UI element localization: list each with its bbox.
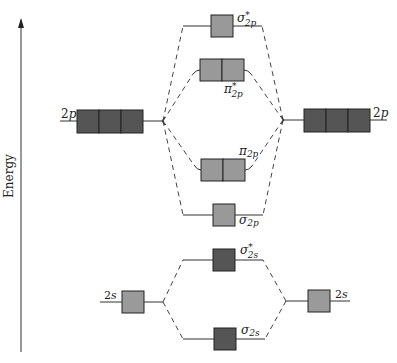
correlation-lines-left-2p [163,26,194,215]
right-2p-orbital: 2p [284,106,389,132]
right-2p-label: 2p [373,106,389,120]
left-2s-orbital: 2s [100,289,163,313]
mo-sigma-2p: σ2p [183,204,263,228]
right-2s-label: 2s [335,288,348,301]
correlation-lines-2s [163,260,286,339]
sigma-star-2s-label: σ*2s [240,242,258,260]
sigma-2s-label: σ2s [241,323,260,338]
pi-2p-label: π2p [238,144,259,159]
sigma-star-2p-label: σ*2p [237,10,256,28]
arrowhead-icon [18,18,24,28]
left-2p-label: 2p [61,107,77,121]
mo-pi-star-2p: π*2p [193,59,251,99]
mo-diagram: Energy 2p 2p 2s 2s σ*2p [0,0,397,363]
mo-sigma-star-2s: σ*2s [183,242,263,271]
mo-sigma-2s: σ2s [183,323,265,350]
energy-axis: Energy [2,18,24,352]
right-2s-orbital: 2s [286,288,350,312]
left-2s-label: 2s [104,289,117,302]
energy-axis-label: Energy [2,154,16,198]
correlation-lines-right-2p [251,26,283,215]
mo-sigma-star-2p: σ*2p [183,10,262,37]
mo-pi-2p: π2p [194,144,259,181]
left-2p-orbital: 2p [60,107,162,133]
pi-star-2p-label: π*2p [223,81,243,99]
